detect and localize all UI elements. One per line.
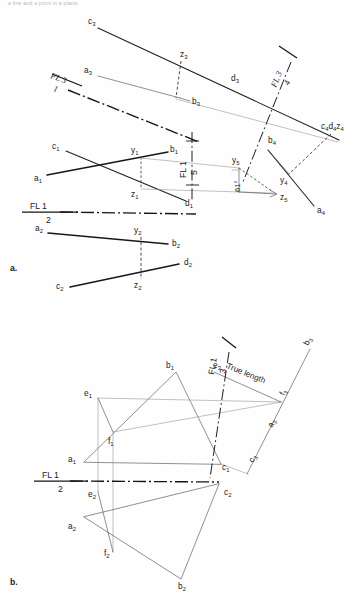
fold-label-1-2-a: FL 1 2 xyxy=(30,201,51,225)
label-b3: b3 xyxy=(192,96,201,107)
line-c3-d4 xyxy=(98,28,339,140)
fold-label-1-5-bottom: 5 xyxy=(189,170,199,175)
drawing-sheet: a line and a point in a plane. xyxy=(0,0,364,610)
label-d3: d3 xyxy=(231,73,240,84)
line-c3-b3 xyxy=(247,349,310,474)
label-c1: c1 xyxy=(52,141,59,152)
fold-line-1-3-rule xyxy=(222,337,236,348)
line-b3-d4 xyxy=(176,99,338,142)
annotation-angle-61: 61° xyxy=(233,181,242,192)
line-f1-f3 xyxy=(113,402,281,432)
label-a4: a4 xyxy=(317,205,326,216)
fold-label-3-1: FL 3 1 xyxy=(45,70,68,96)
fold-line-1-2b-chain xyxy=(70,481,219,482)
figure-a: c3 z3 d3 a3 b3 c4d4z4 b4 y4 a4 c1 y1 b1 … xyxy=(10,16,345,292)
fold-label-1-2-a-top: FL 1 xyxy=(30,201,47,211)
fold-label-1-2-a-bottom: 2 xyxy=(46,215,51,225)
figure-a-caption: a. xyxy=(10,263,17,273)
label-a1: a1 xyxy=(34,173,42,184)
line-b4-a4 xyxy=(268,150,314,206)
fold-label-1-2-b-top: FL 1 xyxy=(42,470,59,480)
label-b4: b4 xyxy=(268,135,277,146)
label-y1: y1 xyxy=(131,145,138,156)
figure-b: b1 e3 e1 f1 a1 c1 c2 e2 a2 f2 b2 b3 f3 a… xyxy=(10,335,315,592)
label-y4: y4 xyxy=(280,175,288,186)
fold-label-3-4-bottom: 4 xyxy=(281,78,292,86)
label-b3-fig-b: b3 xyxy=(301,335,315,348)
label-c4d4z4: c4d4z4 xyxy=(321,121,345,132)
line-c2-d2 xyxy=(70,264,179,287)
technical-drawing-canvas: c3 z3 d3 a3 b3 c4d4z4 b4 y4 a4 c1 y1 b1 … xyxy=(0,0,364,610)
label-e1: e1 xyxy=(84,388,92,399)
line-c1-d1 xyxy=(66,151,186,201)
label-c3: c3 xyxy=(88,16,96,27)
line-a1-b1 xyxy=(47,152,168,175)
label-d2: d2 xyxy=(184,257,192,268)
projector-y1-y5 xyxy=(141,158,239,168)
label-c2: c2 xyxy=(56,281,63,292)
label-e2: e2 xyxy=(88,489,96,500)
line-a3-b3 xyxy=(98,76,180,98)
label-a2: a2 xyxy=(35,223,43,234)
label-z5: z5 xyxy=(280,192,288,203)
label-y2: y2 xyxy=(134,225,141,236)
label-f2: f2 xyxy=(104,548,110,559)
fig-b-fold-1-2 xyxy=(34,481,219,482)
fig-b-view-2 xyxy=(84,484,219,579)
label-c1-fig-b: c1 xyxy=(222,462,229,473)
line-c4-y4-dashed xyxy=(289,134,331,174)
annotation-true-length: True length xyxy=(225,362,267,386)
line-e1-f1 xyxy=(98,398,113,432)
label-a3: a3 xyxy=(84,65,93,76)
label-y5: y5 xyxy=(232,155,240,166)
label-a2-fig-b: a2 xyxy=(68,521,76,532)
label-f3-group: f3 xyxy=(277,387,290,398)
label-b1-fig-b: b1 xyxy=(166,360,174,371)
line-y4-b4 xyxy=(268,150,289,174)
angle-61-text: 61° xyxy=(233,181,242,192)
true-length-text: True length xyxy=(225,362,267,386)
label-z3: z3 xyxy=(180,49,188,60)
figure-b-caption: b. xyxy=(10,577,18,587)
fold-line-1-2-chain xyxy=(60,212,196,214)
label-f3: f3 xyxy=(277,387,290,398)
fold-label-3-1-bottom: 1 xyxy=(52,83,59,94)
fig-a-fold-1-2 xyxy=(22,212,196,214)
triangle-a2-b2-c2 xyxy=(84,484,219,579)
line-e2-f2 xyxy=(98,492,113,552)
triangle-a1-b1-c1 xyxy=(84,372,221,464)
projector-z3-b3 xyxy=(176,61,181,98)
label-b1: b1 xyxy=(170,144,178,155)
fold-label-1-2-b: FL 1 2 xyxy=(42,470,63,494)
fig-a-view-2 xyxy=(48,233,179,287)
fold-line-3-4-rule xyxy=(279,46,297,58)
fig-a-view-4 xyxy=(268,134,331,206)
fold-label-3-4: FL 3 4 xyxy=(268,70,294,94)
line-a2-b2 xyxy=(48,233,168,244)
label-c2-fig-b: c2 xyxy=(224,487,231,498)
label-b3-group: b3 xyxy=(301,335,315,348)
label-b2: b2 xyxy=(172,238,180,249)
label-b2-fig-b: b2 xyxy=(178,581,186,592)
label-z2: z2 xyxy=(134,280,141,291)
fold-label-1-2-b-bottom: 2 xyxy=(58,484,63,494)
label-a1-fig-b: a1 xyxy=(68,454,76,465)
label-z1: z1 xyxy=(131,189,138,200)
label-a3-group: a3 xyxy=(265,417,279,430)
line-e1-e3 xyxy=(98,398,281,402)
label-a3-fig-b: a3 xyxy=(265,417,279,430)
label-d1: d1 xyxy=(185,198,193,209)
fold-label-1-5-top: FL 1 xyxy=(178,161,188,178)
